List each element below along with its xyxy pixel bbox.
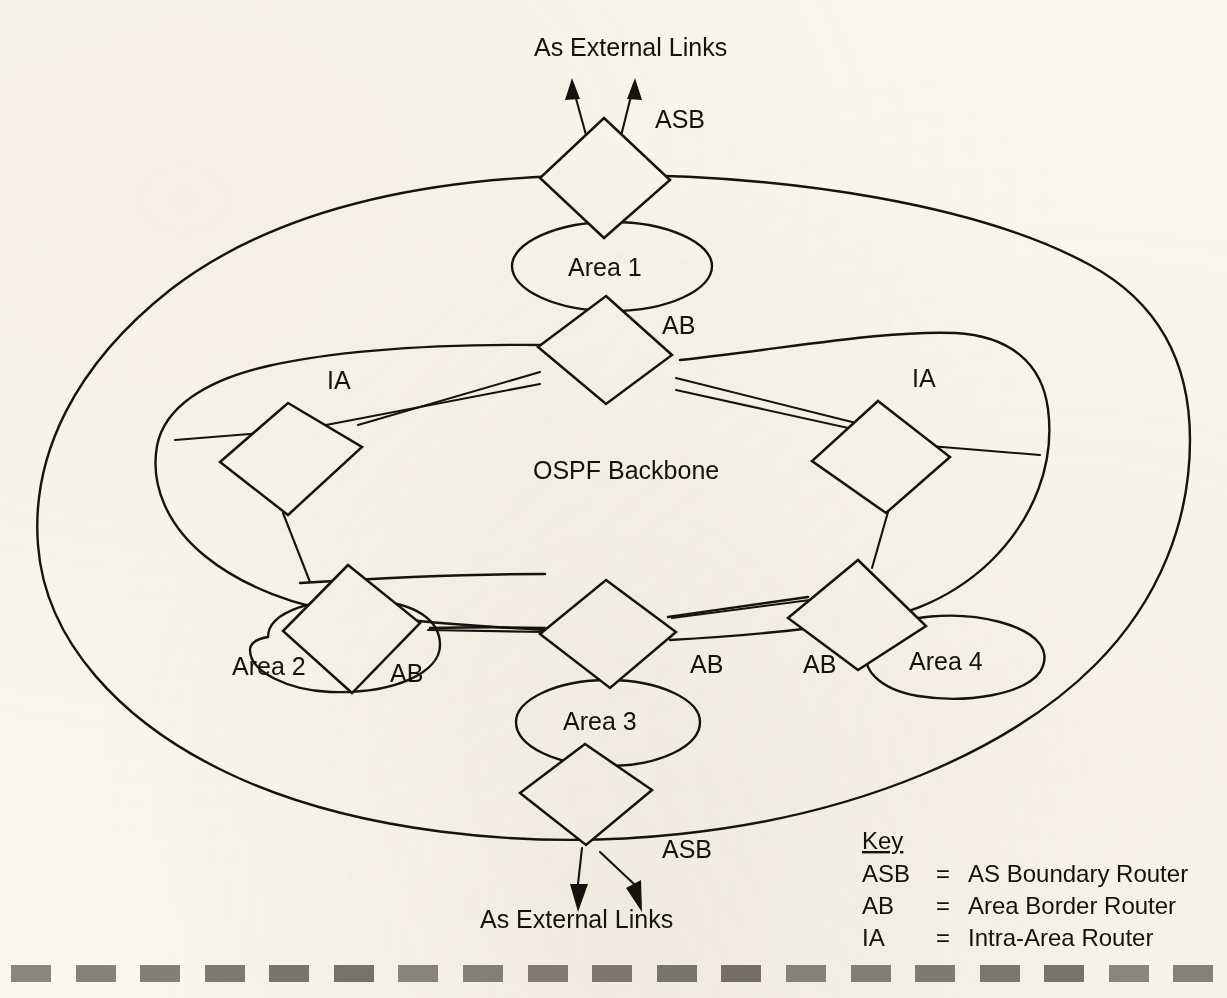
external-link-arrow-down-left — [578, 848, 582, 884]
router-ab-area4-label: AB — [803, 650, 836, 678]
link-ab1-to-ia-right — [676, 378, 860, 424]
scan-artifact-dash — [463, 965, 503, 982]
key-row-0-meaning: AS Boundary Router — [968, 860, 1188, 887]
key-row-1-equals: = — [936, 892, 950, 919]
router-asb-top-label: ASB — [655, 105, 705, 133]
backbone-label: OSPF Backbone — [533, 456, 719, 484]
key-row-1-abbr: AB — [862, 892, 894, 919]
key-row-1-meaning: Area Border Router — [968, 892, 1176, 919]
router-ab-area3-group[interactable] — [540, 580, 676, 688]
scan-artifact-dash — [205, 965, 245, 982]
ospf-topology-diagram: As External Links ASB Area 1 AB IA IA OS… — [0, 0, 1227, 998]
router-asb-bottom — [520, 744, 652, 845]
scan-artifact-dash — [528, 965, 568, 982]
scan-artifact-dash — [1173, 965, 1213, 982]
scan-artifact-strip — [0, 936, 1227, 998]
scan-artifact-dash — [657, 965, 697, 982]
router-ia-right-label: IA — [912, 364, 936, 392]
router-ia-left-label: IA — [327, 366, 351, 394]
scan-artifact-dash — [140, 965, 180, 982]
scan-artifact-dash — [592, 965, 632, 982]
area-3-label: Area 3 — [563, 707, 637, 735]
link-ab1-to-ia-left — [358, 372, 540, 425]
scan-artifact-dash — [334, 965, 374, 982]
arrowhead-up-left — [565, 78, 580, 100]
scan-artifact-dash — [980, 965, 1020, 982]
area-2-label: Area 2 — [232, 652, 306, 680]
router-ab-area1-label: AB — [662, 311, 695, 339]
router-ab-area1-group[interactable] — [538, 296, 672, 404]
external-links-bottom-label: As External Links — [480, 905, 673, 933]
external-links-top-label: As External Links — [534, 33, 727, 61]
router-ab-area3 — [540, 580, 676, 688]
router-asb-bottom-group[interactable] — [520, 744, 652, 912]
key-row-0-equals: = — [936, 860, 950, 887]
router-asb-top — [540, 118, 670, 238]
router-ia-left — [220, 403, 362, 515]
area-4-label: Area 4 — [909, 647, 983, 675]
diagram-page: As External Links ASB Area 1 AB IA IA OS… — [0, 0, 1227, 998]
area-ellipses — [250, 222, 1044, 766]
area-1-label: Area 1 — [568, 253, 642, 281]
arrowhead-up-right — [627, 78, 642, 100]
scan-artifact-dash — [1044, 965, 1084, 982]
link-ab1-to-ab2 — [175, 384, 540, 440]
link-ia-right-to-ab4 — [872, 512, 888, 568]
scan-artifact-dash — [11, 965, 51, 982]
scan-artifact-dash — [76, 965, 116, 982]
key-row-0-abbr: ASB — [862, 860, 910, 887]
link-ia-left-to-ab2 — [283, 513, 310, 582]
router-ab-area3-label: AB — [690, 650, 723, 678]
scan-artifact-dash — [851, 965, 891, 982]
router-asb-bottom-label: ASB — [662, 835, 712, 863]
key-title: Key — [862, 827, 903, 854]
scan-artifact-dash — [1109, 965, 1149, 982]
scan-artifact-dash — [786, 965, 826, 982]
scan-artifact-dash — [398, 965, 438, 982]
link-ab2-to-ab3 — [428, 630, 545, 632]
key-legend: Key ASB = AS Boundary Router AB = Area B… — [862, 827, 1188, 951]
scan-artifact-dash — [915, 965, 955, 982]
router-asb-top-group[interactable] — [540, 78, 670, 238]
router-ab-area2-label: AB — [390, 659, 423, 687]
scan-artifact-dash — [269, 965, 309, 982]
external-link-arrow-down-right — [600, 852, 634, 884]
router-ia-left-group[interactable] — [220, 403, 362, 515]
scan-artifact-dash — [721, 965, 761, 982]
router-ab-area1 — [538, 296, 672, 404]
